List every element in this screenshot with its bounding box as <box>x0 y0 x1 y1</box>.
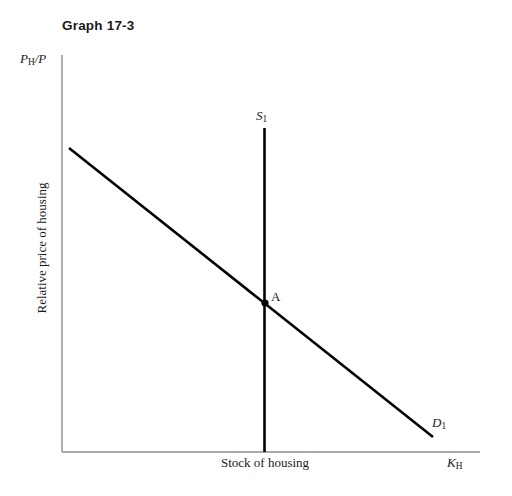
supply-curve-label: S1 <box>256 108 267 124</box>
y-axis-unit-tail: /P <box>35 51 47 66</box>
x-axis-unit-main: K <box>447 455 456 470</box>
y-axis-unit-label: PH/P <box>20 51 46 67</box>
demand-curve <box>69 148 433 437</box>
y-axis-unit-main: P <box>20 51 28 66</box>
graph-figure: Graph 17-3 PH/P Relative price of housin… <box>0 0 512 496</box>
y-axis-unit-sub: H <box>28 57 35 67</box>
x-axis-title: Stock of housing <box>175 455 355 471</box>
demand-label-main: D <box>432 415 441 430</box>
equilibrium-point-marker <box>261 299 268 306</box>
x-axis-unit-sub: H <box>456 461 463 471</box>
y-axis-title: Relative price of housing <box>34 168 50 328</box>
x-axis-unit-label: KH <box>447 455 462 471</box>
demand-curve-label: D1 <box>432 415 446 431</box>
supply-label-sub: 1 <box>263 114 268 124</box>
equilibrium-point-label: A <box>271 289 280 305</box>
demand-label-sub: 1 <box>441 421 446 431</box>
